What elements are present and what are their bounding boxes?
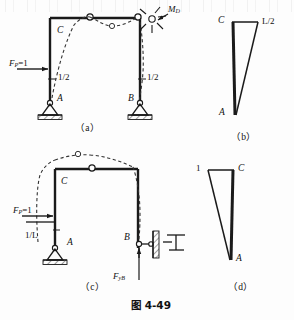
moment-burst-symbol [140,7,168,33]
panel-a-load-label: FP=1 [9,59,28,68]
panel-c-hinges [89,165,95,171]
panel-b-top-left-label: C [218,16,224,26]
panel-c-load-arrow [22,216,55,222]
panel-d-diagram [208,170,234,260]
panel-a-ordinate-right-label: 1/2 [147,73,159,82]
figure-page: FP=1 C A B 1/2 1/2 MD （a） C L/2 A （b） FP… [0,0,294,320]
panel-d-caption: （d） [228,283,254,293]
panel-c-joint-b-label: B [124,233,130,243]
panel-d-bottom-label: A [236,254,242,264]
panel-a-deflected-shape [52,17,143,102]
figure-caption: 图 4-49 [131,300,171,311]
moment-md-label: MD [168,5,180,14]
panel-c-ordinate-left-label: 1/L [25,231,38,240]
panel-a-joint-b-label: B [128,94,134,104]
support-detail-symbol [163,235,185,250]
panel-b-bottom-label: A [219,108,225,118]
panel-c-reaction-label: FyB [113,272,125,281]
panel-c-joint-c-label: C [61,177,67,187]
panel-a-caption: （a） [75,124,100,134]
support-pin-c-left [43,245,67,264]
panel-c-joint-a-label: A [67,238,73,248]
panel-b-diagram [232,22,258,115]
panel-a-ordinate-left-label: 1/2 [58,73,70,82]
panel-d-top-right-label: C [238,164,244,174]
panel-d-top-left-label: 1 [196,164,201,173]
panel-b-top-right-label: L/2 [262,17,275,26]
panel-a-frame [50,18,140,103]
panel-a-joint-c-label: C [57,26,63,36]
panel-c-caption: （c） [80,283,105,293]
panel-c-load-label: FP=1 [13,206,32,215]
panel-a-joint-a-label: A [57,94,63,104]
support-roller-c-right [136,231,159,280]
figure-canvas [0,0,294,320]
panel-b-caption: （b） [231,133,257,143]
